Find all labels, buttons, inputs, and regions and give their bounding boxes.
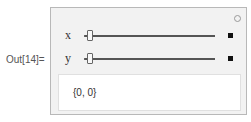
plus-icon[interactable] [228, 56, 233, 61]
slider-row-x: x [51, 30, 246, 42]
slider-track-y[interactable] [85, 58, 215, 60]
manipulate-output: {0, 0} [58, 74, 241, 111]
slider-track-x[interactable] [85, 35, 215, 37]
slider-row-y: y [51, 53, 246, 65]
plus-icon[interactable] [228, 33, 233, 38]
output-value: {0, 0} [73, 87, 96, 98]
slider-thumb-x[interactable] [87, 30, 93, 41]
slider-label-y: y [65, 51, 71, 66]
manipulate-panel: x y {0, 0} [50, 7, 247, 115]
slider-label-x: x [65, 28, 71, 43]
output-cell-label: Out[14]= [6, 54, 45, 65]
gear-icon[interactable] [234, 15, 241, 22]
slider-thumb-y[interactable] [87, 53, 93, 64]
